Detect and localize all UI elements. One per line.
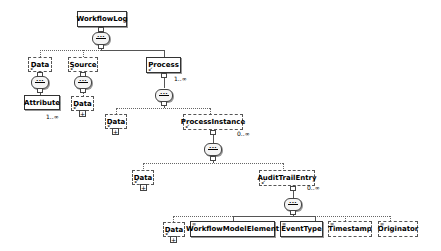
element-source[interactable]: ↙ Source bbox=[68, 57, 98, 72]
element-data[interactable]: ↙ Data bbox=[132, 170, 154, 185]
cardinality-label: 0..∞ bbox=[237, 130, 250, 137]
element-data[interactable]: ↙ Data bbox=[71, 96, 94, 111]
element-label: Attribute bbox=[24, 99, 60, 107]
connector bbox=[233, 216, 315, 217]
element-eventtype[interactable]: ≡ EventType bbox=[280, 221, 323, 237]
element-data[interactable]: ↙ Data bbox=[105, 114, 127, 129]
expand-toggle[interactable] bbox=[98, 44, 104, 49]
expand-plus-icon[interactable]: + bbox=[79, 110, 86, 117]
connector-optional bbox=[173, 216, 233, 217]
element-process[interactable]: ↙ Process bbox=[146, 57, 181, 73]
expand-plus-icon[interactable]: + bbox=[112, 128, 119, 135]
reference-arrow-icon: ↙ bbox=[70, 65, 75, 71]
connector-optional bbox=[83, 50, 84, 57]
attributes-icon: ≡ bbox=[282, 222, 286, 227]
sequence-icon bbox=[204, 143, 222, 156]
expand-toggle[interactable] bbox=[210, 130, 216, 135]
expand-toggle[interactable] bbox=[37, 88, 43, 93]
reference-arrow-icon: ↙ bbox=[30, 65, 35, 71]
element-label: WorkflowLog bbox=[76, 15, 127, 23]
schema-diagram: WorkflowLog ↙ Data Attribute 1..∞ ↙ Sour… bbox=[0, 0, 441, 251]
element-attribute[interactable]: Attribute bbox=[24, 95, 60, 110]
expand-toggle[interactable] bbox=[161, 101, 167, 106]
reference-arrow-icon: ↙ bbox=[261, 179, 266, 185]
reference-arrow-icon: ↙ bbox=[134, 178, 139, 184]
element-label: WorkflowModelElement bbox=[186, 225, 279, 233]
element-processinstance[interactable]: ↙ ProcessInstance bbox=[183, 114, 243, 130]
connector-optional bbox=[315, 216, 390, 217]
expand-toggle[interactable] bbox=[161, 73, 167, 78]
element-label: AuditTrailEntry bbox=[257, 174, 316, 182]
element-data[interactable]: ↙ Data bbox=[28, 57, 52, 72]
cardinality-label: 0..∞ bbox=[307, 184, 320, 191]
connector bbox=[213, 134, 214, 143]
connector bbox=[164, 50, 165, 57]
expand-plus-icon[interactable]: + bbox=[140, 184, 147, 191]
connector bbox=[101, 50, 164, 51]
element-label: ProcessInstance bbox=[181, 118, 245, 126]
expand-plus-icon[interactable]: + bbox=[170, 236, 177, 243]
connector-optional bbox=[40, 50, 101, 51]
expand-toggle[interactable] bbox=[80, 88, 86, 93]
cardinality-label: 1..∞ bbox=[174, 75, 187, 82]
element-workflowmodelelement[interactable]: ≡ WorkflowModelElement bbox=[190, 221, 275, 237]
connector-optional bbox=[143, 163, 283, 164]
attributes-icon: ≡ bbox=[330, 222, 334, 227]
attributes-icon: ≡ bbox=[380, 222, 384, 227]
attributes-icon: ≡ bbox=[192, 222, 196, 227]
element-timestamp[interactable]: ≡ Timestamp bbox=[328, 221, 372, 237]
connector bbox=[293, 190, 294, 198]
connector-optional bbox=[116, 108, 210, 109]
element-originator[interactable]: ≡ Originator bbox=[378, 221, 418, 237]
reference-arrow-icon: ↙ bbox=[185, 123, 190, 129]
element-label: EventType bbox=[281, 225, 322, 233]
cardinality-label: 1..∞ bbox=[46, 113, 59, 120]
connector-optional bbox=[40, 50, 41, 57]
expand-toggle[interactable] bbox=[290, 210, 296, 215]
element-data[interactable]: ↙ Data bbox=[163, 222, 185, 237]
element-workflowlog[interactable]: WorkflowLog bbox=[77, 11, 127, 27]
expand-toggle[interactable] bbox=[210, 156, 216, 161]
element-label: Timestamp bbox=[328, 225, 372, 233]
expand-toggle[interactable] bbox=[290, 186, 296, 191]
reference-arrow-icon: ↙ bbox=[73, 104, 78, 110]
reference-arrow-icon: ↙ bbox=[148, 66, 153, 72]
